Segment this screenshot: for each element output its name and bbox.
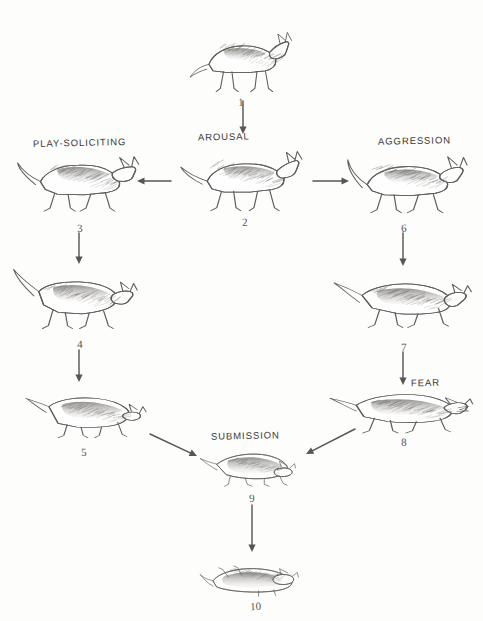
arrow-5-to-9-glyph bbox=[138, 422, 209, 468]
figure-number-3: 3 bbox=[77, 222, 83, 234]
figure-number-4: 4 bbox=[77, 338, 83, 350]
dog-figure-2 bbox=[176, 139, 308, 217]
dog-figure-9 bbox=[200, 444, 304, 492]
arrow-2-to-6-glyph bbox=[301, 169, 361, 193]
canine-posture-diagram: AROUSALPLAY-SOLICITINGAGGRESSIONFEARSUBM… bbox=[0, 0, 483, 621]
arrow-5-to-9 bbox=[138, 422, 209, 468]
figure-number-5: 5 bbox=[81, 446, 87, 458]
figure-number-1: 1 bbox=[238, 96, 244, 108]
figure-number-10: 10 bbox=[250, 600, 261, 612]
figure-number-7: 7 bbox=[401, 341, 407, 353]
dog-sketch-2 bbox=[176, 139, 308, 217]
arrow-2-to-3 bbox=[125, 169, 183, 193]
state-label-submission: SUBMISSION bbox=[211, 429, 280, 441]
figure-number-6: 6 bbox=[401, 222, 407, 234]
dog-sketch-1 bbox=[188, 18, 303, 98]
arrow-8-to-9 bbox=[294, 417, 367, 466]
arrow-2-to-3-glyph bbox=[125, 169, 183, 193]
dog-sketch-5 bbox=[26, 385, 152, 445]
figure-number-9: 9 bbox=[249, 492, 255, 504]
dog-figure-1 bbox=[188, 18, 303, 98]
state-label-aggression: AGGRESSION bbox=[378, 134, 451, 147]
dog-sketch-9 bbox=[200, 444, 304, 492]
state-label-play-soliciting: PLAY-SOLICITING bbox=[33, 136, 126, 149]
state-label-fear: FEAR bbox=[411, 377, 440, 389]
arrow-2-to-6 bbox=[301, 169, 361, 193]
dog-figure-5 bbox=[26, 385, 152, 445]
arrow-8-to-9-glyph bbox=[294, 417, 367, 466]
state-label-arousal: AROUSAL bbox=[198, 130, 250, 142]
figure-number-2: 2 bbox=[242, 216, 248, 228]
figure-number-8: 8 bbox=[401, 436, 407, 448]
